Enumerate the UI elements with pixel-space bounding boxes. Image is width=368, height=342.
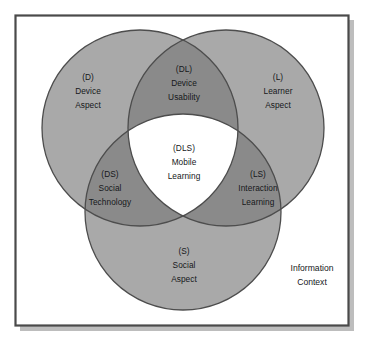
label-interaction-learning-line2: Learning bbox=[242, 197, 275, 207]
label-device-aspect-code: (D) bbox=[82, 72, 94, 82]
label-social-aspect-code: (S) bbox=[178, 246, 189, 256]
label-learner-aspect-line1: Learner bbox=[264, 86, 293, 96]
label-information-context-line1: Information bbox=[291, 263, 334, 273]
venn-diagram-canvas: (D) Device Aspect (DL) Device Usability … bbox=[0, 0, 368, 342]
label-mobile-learning-code: (DLS) bbox=[173, 143, 195, 153]
label-social-aspect-line1: Social bbox=[173, 260, 196, 270]
label-social-technology-line1: Social bbox=[99, 183, 122, 193]
label-interaction-learning-line1: Interaction bbox=[238, 183, 278, 193]
label-social-technology-line2: Technology bbox=[89, 197, 132, 207]
label-device-usability-code: (DL) bbox=[176, 64, 193, 74]
label-learner-aspect-line2: Aspect bbox=[265, 100, 291, 110]
label-mobile-learning-line1: Mobile bbox=[172, 157, 197, 167]
label-mobile-learning-line2: Learning bbox=[168, 171, 201, 181]
label-information-context-line2: Context bbox=[297, 277, 327, 287]
label-device-usability-line1: Device bbox=[171, 78, 197, 88]
label-learner-aspect-code: (L) bbox=[273, 72, 283, 82]
label-device-usability-line2: Usability bbox=[168, 92, 201, 102]
label-social-technology-code: (DS) bbox=[101, 169, 118, 179]
label-device-aspect-line2: Aspect bbox=[75, 100, 101, 110]
label-social-aspect-line2: Aspect bbox=[171, 274, 197, 284]
label-device-aspect-line1: Device bbox=[75, 86, 101, 96]
label-interaction-learning-code: (LS) bbox=[250, 169, 266, 179]
venn-diagram-figure: (D) Device Aspect (DL) Device Usability … bbox=[0, 0, 368, 342]
